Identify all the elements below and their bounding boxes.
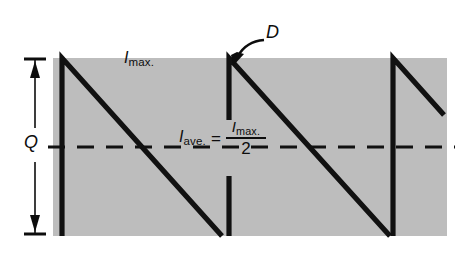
equation-equals-sign: = (210, 130, 222, 147)
dimension-label-q: Q (24, 133, 39, 151)
q-arrowhead-down (30, 215, 40, 232)
equation-i-average: Iave. = Imax. 2 (179, 119, 266, 157)
sawtooth-waveform-figure: Q Imax. D Iave. = Imax. 2 (0, 0, 472, 257)
q-arrowhead-up (30, 61, 40, 78)
equation-fraction: Imax. 2 (226, 119, 266, 157)
label-i-ave-subscript: ave. (183, 135, 206, 147)
equation-lhs: Iave. (179, 129, 206, 147)
equation-denominator: 2 (238, 139, 253, 157)
callout-label-d: D (266, 23, 279, 41)
label-i-max: Imax. (124, 50, 154, 68)
label-i-max-subscript: max. (128, 56, 154, 68)
equation-numerator-subscript: max. (236, 125, 260, 137)
equation-numerator: Imax. (229, 119, 263, 137)
